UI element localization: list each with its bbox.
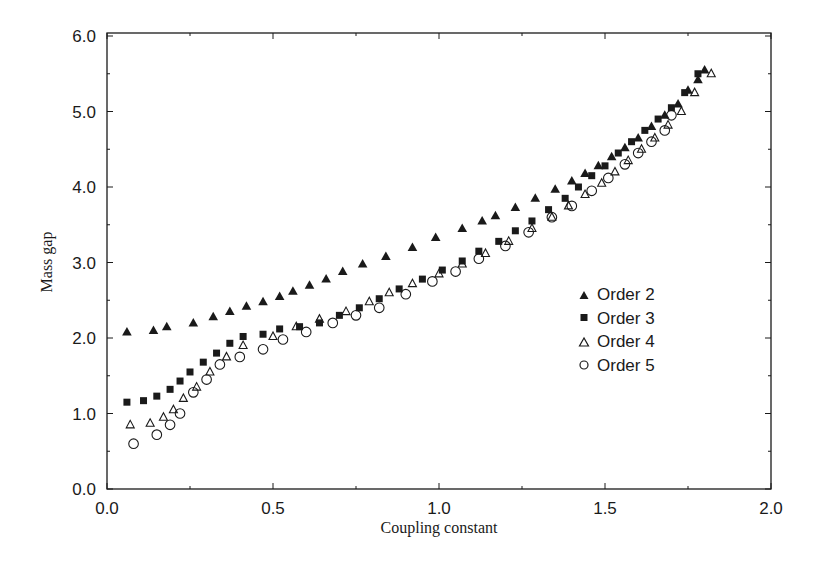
open-triangle-marker	[365, 297, 373, 305]
filled-square-icon	[581, 314, 588, 321]
filled-triangle-marker	[408, 242, 418, 251]
legend-item-order-4: Order 4	[580, 332, 655, 351]
filled-triangle-marker	[567, 176, 577, 185]
open-triangle-marker	[159, 413, 167, 421]
filled-triangle-marker	[189, 318, 199, 327]
open-circle-marker	[258, 345, 268, 355]
open-triangle-marker	[611, 167, 619, 175]
legend-label: Order 3	[597, 309, 655, 328]
open-circle-icon	[580, 361, 588, 369]
filled-square-marker	[588, 172, 595, 179]
open-circle-marker	[301, 327, 311, 337]
filled-square-marker	[200, 359, 207, 366]
filled-square-marker	[167, 386, 174, 393]
open-circle-marker	[474, 254, 484, 264]
filled-square-marker	[655, 116, 662, 123]
open-triangle-marker	[146, 419, 154, 427]
x-axis-title: Coupling constant	[381, 519, 498, 537]
y-tick-label: 6.0	[72, 27, 96, 46]
open-circle-marker	[175, 409, 185, 419]
legend-label: Order 2	[597, 285, 655, 304]
filled-square-marker	[187, 368, 194, 375]
filled-triangle-marker	[242, 301, 252, 310]
filled-square-marker	[694, 70, 701, 77]
filled-triangle-marker	[477, 216, 487, 225]
open-triangle-marker	[206, 367, 214, 375]
open-circle-marker	[604, 173, 614, 183]
filled-square-marker	[240, 333, 247, 340]
open-circle-marker	[633, 148, 643, 158]
filled-square-marker	[681, 89, 688, 96]
open-triangle-marker	[408, 279, 416, 287]
y-tick-label: 5.0	[72, 103, 96, 122]
filled-square-marker	[140, 397, 147, 404]
tick-labels: 0.00.51.01.52.00.01.02.03.04.05.06.0	[72, 27, 782, 518]
open-circle-marker	[328, 318, 338, 328]
legend-item-order-3: Order 3	[581, 309, 655, 328]
filled-triangle-marker	[358, 259, 368, 268]
open-triangle-marker	[677, 107, 685, 115]
filled-square-marker	[615, 150, 622, 157]
x-tick-label: 0.5	[261, 499, 285, 518]
series-order-5	[129, 110, 676, 448]
open-circle-marker	[351, 311, 361, 321]
open-circle-marker	[647, 137, 657, 147]
filled-triangle-marker	[530, 193, 540, 202]
open-triangle-marker	[342, 307, 350, 315]
open-circle-marker	[667, 110, 677, 120]
y-tick-label: 3.0	[72, 254, 96, 273]
filled-square-marker	[260, 331, 267, 338]
filled-square-marker	[562, 195, 569, 202]
x-tick-label: 0.0	[95, 499, 119, 518]
filled-triangle-marker	[381, 251, 391, 259]
legend-item-order-5: Order 5	[580, 356, 655, 375]
filled-triangle-marker	[162, 322, 172, 331]
open-circle-marker	[428, 277, 438, 287]
y-tick-label: 0.0	[72, 480, 96, 499]
filled-square-marker	[628, 138, 635, 145]
y-tick-label: 1.0	[72, 405, 96, 424]
filled-square-marker	[316, 319, 323, 326]
plot-frame	[107, 33, 771, 489]
x-tick-label: 1.0	[427, 499, 451, 518]
filled-square-marker	[512, 227, 519, 234]
filled-square-marker	[123, 399, 130, 406]
open-circle-marker	[278, 335, 288, 345]
open-circle-marker	[524, 228, 534, 238]
filled-triangle-marker	[208, 312, 218, 321]
filled-square-marker	[419, 276, 426, 283]
filled-square-marker	[336, 312, 343, 319]
filled-triangle-marker	[275, 291, 285, 300]
open-triangle-marker	[269, 332, 277, 340]
filled-square-marker	[153, 393, 160, 400]
open-triangle-marker	[223, 352, 231, 360]
open-triangle-marker	[385, 288, 393, 296]
filled-triangle-marker	[149, 325, 159, 334]
filled-square-marker	[575, 184, 582, 191]
filled-square-marker	[226, 340, 233, 347]
filled-triangle-marker	[258, 297, 268, 306]
filled-triangle-marker	[122, 327, 132, 336]
filled-square-marker	[641, 127, 648, 134]
filled-square-marker	[602, 162, 609, 169]
open-triangle-marker	[691, 88, 699, 96]
legend: Order 2 Order 3 Order 4 Order 5	[580, 285, 655, 375]
filled-triangle-marker	[431, 233, 441, 242]
filled-triangle-marker	[457, 224, 467, 233]
filled-triangle-marker	[338, 267, 348, 276]
open-circle-marker	[235, 352, 245, 362]
filled-triangle-marker	[225, 307, 235, 316]
open-circle-marker	[165, 420, 175, 430]
x-tick-label: 2.0	[759, 499, 783, 518]
axis-ticks	[107, 33, 771, 489]
filled-square-marker	[376, 295, 383, 302]
open-triangle-marker	[126, 420, 134, 428]
legend-item-order-2: Order 2	[580, 285, 655, 304]
open-circle-marker	[215, 360, 225, 370]
legend-label: Order 4	[597, 332, 655, 351]
open-triangle-marker	[179, 394, 187, 402]
open-circle-marker	[152, 430, 162, 440]
filled-triangle-marker	[288, 286, 298, 295]
y-tick-label: 2.0	[72, 329, 96, 348]
open-circle-marker	[620, 160, 630, 170]
